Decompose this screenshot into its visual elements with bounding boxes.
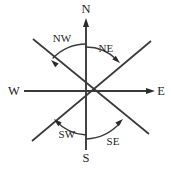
label-south: S bbox=[83, 151, 90, 165]
compass-rose-diagram: N S W E NW NE SW SE bbox=[0, 0, 171, 173]
angle-arc-nw bbox=[53, 44, 86, 58]
arrowhead-north-icon bbox=[83, 18, 89, 27]
label-east: E bbox=[157, 84, 165, 98]
label-north: N bbox=[81, 2, 90, 16]
label-west: W bbox=[8, 84, 20, 98]
label-northeast: NE bbox=[98, 42, 113, 54]
arrowhead-se-icon bbox=[115, 119, 123, 126]
diagonal-lines-group bbox=[32, 39, 151, 141]
label-northwest: NW bbox=[53, 32, 72, 44]
arrowhead-east-icon bbox=[146, 88, 155, 94]
diagonal-nw-se bbox=[33, 39, 149, 134]
arrowhead-nw-icon bbox=[51, 60, 59, 67]
label-southwest: SW bbox=[59, 128, 76, 140]
compass-diagram-canvas: N S W E NW NE SW SE bbox=[0, 0, 171, 173]
cardinal-arrowheads-group bbox=[83, 18, 155, 94]
label-southeast: SE bbox=[106, 135, 119, 147]
